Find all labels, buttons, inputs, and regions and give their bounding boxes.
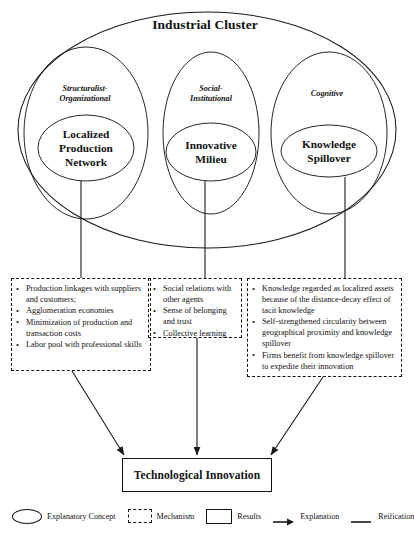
- legend: Explanatory Concept Mechanism Results Ex…: [12, 505, 402, 527]
- mechanism-list-item: Self-strengthened circularity between ge…: [251, 317, 397, 350]
- mechanism-list-item: Agglomeration economies: [15, 306, 146, 317]
- dimension-label-structuralist: Structuralist-Organizational: [30, 84, 140, 104]
- dimension-label-social: Social-Institutional: [163, 84, 259, 104]
- mechanism-list-item: Production linkages with suppliers and c…: [15, 284, 146, 306]
- results-label: Technological Innovation: [134, 469, 260, 481]
- mechanism-box-social: Social relations with other agentsSense …: [148, 278, 242, 338]
- explanation-arrow-right: [271, 377, 323, 455]
- legend-item-results: Results: [206, 509, 261, 524]
- concept-label-innovative-milieu: InnovativeMilieu: [166, 138, 256, 166]
- mechanism-box-structuralist: Production linkages with suppliers and c…: [11, 278, 151, 371]
- mechanism-list-item: Firms benefit from knowledge spillover t…: [251, 351, 397, 373]
- mechanism-list-social: Social relations with other agentsSense …: [152, 284, 237, 340]
- explanation-arrow-left: [72, 371, 124, 455]
- mechanism-list-item: Labor pool with professional skills: [15, 340, 146, 351]
- solid-rectangle-icon: [206, 509, 232, 524]
- mechanism-list-item: Knowledge regarded as localized assets b…: [251, 284, 397, 317]
- legend-label-reification: Reification: [378, 512, 414, 521]
- concept-label-knowledge-spillover: KnowledgeSpillover: [283, 137, 375, 165]
- mechanism-list-cognitive: Knowledge regarded as localized assets b…: [251, 284, 397, 373]
- results-box-technological-innovation: Technological Innovation: [122, 458, 272, 492]
- legend-item-reification: Reification: [351, 512, 414, 521]
- dashed-rectangle-icon: [128, 509, 152, 523]
- mechanism-list-item: Sense of belonging and trust: [152, 306, 237, 328]
- legend-label-explanatory-concept: Explanatory Concept: [47, 512, 116, 521]
- ellipse-outline-icon: [12, 509, 42, 524]
- dimension-label-cognitive: Cognitive: [282, 89, 372, 99]
- legend-label-mechanism: Mechanism: [157, 512, 195, 521]
- legend-item-explanatory-concept: Explanatory Concept: [12, 509, 116, 524]
- legend-label-results: Results: [237, 512, 261, 521]
- legend-item-mechanism: Mechanism: [128, 509, 195, 523]
- concept-label-localized-production-network: LocalizedProductionNetwork: [40, 127, 132, 169]
- mechanism-list-item: Collective learning: [152, 329, 237, 340]
- mechanism-list-structuralist: Production linkages with suppliers and c…: [15, 284, 146, 351]
- page-title: Industrial Cluster: [105, 17, 305, 32]
- mechanism-box-cognitive: Knowledge regarded as localized assets b…: [247, 278, 402, 377]
- legend-label-explanation: Explanation: [300, 512, 339, 521]
- plain-line-icon: [351, 512, 373, 520]
- legend-item-explanation: Explanation: [273, 512, 339, 521]
- mechanism-list-item: Minimization of production and transacti…: [15, 318, 146, 340]
- arrow-right-icon: [273, 512, 295, 520]
- mechanism-list-item: Social relations with other agents: [152, 284, 237, 306]
